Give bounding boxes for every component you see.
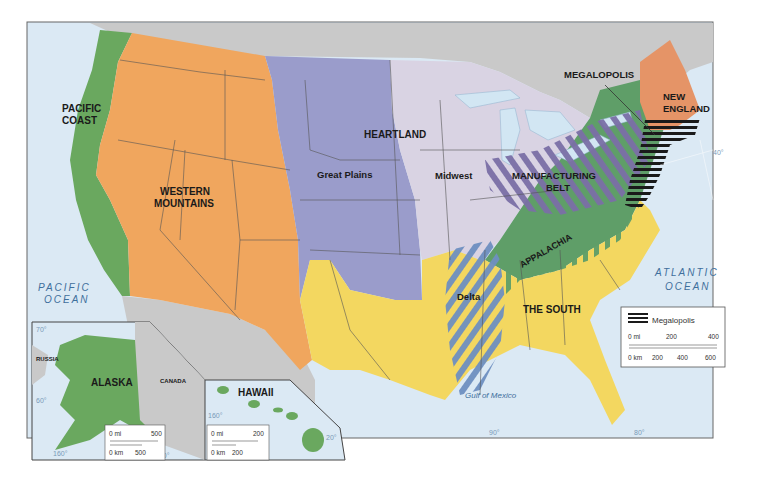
label-pacific-coast: PACIFIC bbox=[62, 103, 101, 114]
legend-megalopolis-label: Megalopolis bbox=[652, 316, 695, 325]
legend-km-400: 400 bbox=[677, 354, 688, 361]
deg-70: 70° bbox=[36, 326, 47, 333]
deg-90: 90° bbox=[489, 429, 500, 436]
label-midwest: Midwest bbox=[435, 170, 473, 181]
label-pacific-coast-2: COAST bbox=[62, 115, 97, 126]
label-pacific-ocean: PACIFIC bbox=[38, 282, 91, 293]
label-megalopolis: MEGALOPOLIS bbox=[564, 69, 634, 80]
svg-text:200: 200 bbox=[232, 449, 243, 456]
legend-km-0: 0 km bbox=[628, 354, 642, 361]
label-western-mountains: WESTERN bbox=[160, 186, 210, 197]
label-great-plains: Great Plains bbox=[317, 169, 372, 180]
svg-text:0 km: 0 km bbox=[109, 449, 123, 456]
deg-160-ak: 160° bbox=[53, 450, 68, 457]
svg-text:0 mi: 0 mi bbox=[109, 430, 121, 437]
label-atlantic-ocean-2: OCEAN bbox=[665, 281, 711, 292]
legend-mi-0: 0 mi bbox=[628, 333, 640, 340]
label-russia: RUSSIA bbox=[36, 356, 59, 362]
svg-text:500: 500 bbox=[151, 430, 162, 437]
label-canada: CANADA bbox=[160, 378, 187, 384]
svg-text:0 km: 0 km bbox=[211, 449, 225, 456]
label-delta: Delta bbox=[457, 291, 481, 302]
label-heartland: HEARTLAND bbox=[364, 129, 426, 140]
deg-20: 20° bbox=[326, 434, 337, 441]
label-alaska: ALASKA bbox=[91, 377, 133, 388]
label-pacific-ocean-2: OCEAN bbox=[44, 294, 90, 305]
label-atlantic-ocean: ATLANTIC bbox=[654, 267, 719, 278]
label-new-england: NEW bbox=[663, 91, 685, 102]
deg-80: 80° bbox=[634, 429, 645, 436]
megalopolis-legend-swatch bbox=[628, 313, 648, 315]
legend-mi-200: 200 bbox=[666, 333, 677, 340]
label-gulf-of-mexico: Gulf of Mexico bbox=[465, 391, 517, 400]
deg-40: 40° bbox=[713, 149, 724, 156]
legend-km-600: 600 bbox=[705, 354, 716, 361]
label-new-england-2: ENGLAND bbox=[663, 103, 710, 114]
hawaii-island-big bbox=[302, 428, 324, 452]
svg-text:200: 200 bbox=[253, 430, 264, 437]
label-manufacturing-belt: MANUFACTURING bbox=[512, 170, 596, 181]
label-the-south: THE SOUTH bbox=[523, 304, 581, 315]
legend-mi-400: 400 bbox=[708, 333, 719, 340]
label-western-mountains-2: MOUNTAINS bbox=[154, 198, 214, 209]
hawaii-island-kauai bbox=[217, 386, 229, 394]
legend-km-200: 200 bbox=[652, 354, 663, 361]
legend-box: Megalopolis 0 mi 200 400 0 km 200 400 60… bbox=[621, 307, 725, 367]
svg-text:0 mi: 0 mi bbox=[211, 430, 223, 437]
svg-text:500: 500 bbox=[135, 449, 146, 456]
deg-60: 60° bbox=[36, 397, 47, 404]
deg-160-hi: 160° bbox=[208, 412, 223, 419]
label-hawaii: HAWAII bbox=[238, 387, 274, 398]
label-manufacturing-belt-2: BELT bbox=[546, 182, 570, 193]
us-regions-map: PACIFIC COAST WESTERN MOUNTAINS Great Pl… bbox=[0, 0, 757, 480]
